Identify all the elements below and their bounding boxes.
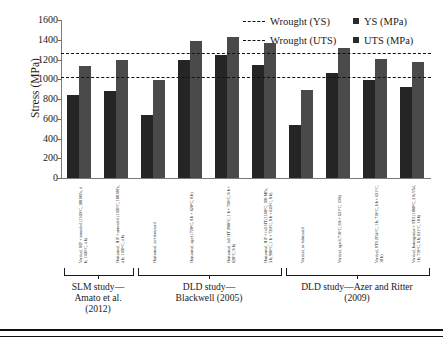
bar-ys	[67, 95, 79, 178]
bar-uts	[227, 37, 239, 178]
y-tick-mark	[58, 40, 61, 41]
x-category-label: Vertical, HIP + annealed (1160°C, 100 MP…	[79, 185, 88, 263]
bottom-rule-thick	[0, 329, 443, 331]
x-category-label: Vertical, STA (954°C, 1 h; 718°C, 6 h + …	[375, 185, 384, 263]
group-bracket-tick	[98, 275, 99, 279]
x-category-label: Vertical, homogenize + STA (1080°C, 2 h;…	[412, 185, 421, 263]
y-tick-label: 1000	[26, 74, 58, 84]
x-category-label: Horizontal, full HT (980°C, 1 h + 720°C,…	[227, 185, 236, 263]
bar-ys	[400, 87, 412, 178]
x-category-label: Horizontal, aged (720°C, 8 h + 620°C, 8 …	[190, 185, 195, 263]
reference-line-wrought-ys	[61, 77, 431, 78]
y-axis-tick-labels: 16001400120010008006004002000	[26, 14, 58, 186]
bar-ys	[289, 125, 301, 178]
x-category-label: Vertical, aged (718°C, 6 h + 621°C, 10 h…	[338, 185, 343, 263]
group-bracket-tick	[209, 275, 210, 279]
x-category-label: Horizontal, HIP + annealed (1160°C, 100 …	[116, 185, 125, 263]
y-tick-label: 800	[26, 94, 58, 104]
y-tick-label: 1200	[26, 55, 58, 65]
bar-uts	[338, 48, 350, 178]
bar-uts	[301, 90, 313, 178]
bar-uts	[264, 43, 276, 178]
bar-ys	[252, 65, 264, 178]
x-category-label: Horizontal, HIP + full HT (1160°C, 100 M…	[264, 185, 273, 263]
y-tick-mark	[58, 139, 61, 140]
y-tick-label: 0	[26, 173, 58, 183]
y-tick-mark	[58, 178, 61, 179]
bar-uts	[190, 41, 202, 178]
y-tick-label: 1400	[26, 35, 58, 45]
y-tick-mark	[58, 79, 61, 80]
bar-uts	[412, 62, 424, 178]
group-label: DLD study—Azer and Ritter(2009)	[264, 281, 443, 303]
group-bracket-tick	[357, 275, 358, 279]
bar-ys	[104, 91, 116, 178]
x-category-label: Horizontal, as-fabricated	[153, 185, 158, 263]
y-tick-label: 600	[26, 114, 58, 124]
group-bracket	[138, 268, 282, 276]
group-bracket	[64, 268, 134, 276]
bar-ys	[215, 55, 227, 178]
y-tick-mark	[58, 99, 61, 100]
y-tick-label: 200	[26, 153, 58, 163]
bar-ys	[326, 73, 338, 178]
plot-area	[61, 20, 431, 178]
bar-uts	[79, 66, 91, 178]
group-bracket	[286, 268, 430, 276]
bar-ys	[363, 80, 375, 178]
y-tick-mark	[58, 60, 61, 61]
y-tick-mark	[58, 158, 61, 159]
x-axis-line	[61, 178, 431, 179]
x-category-label: Vertical, as-fabricated	[301, 185, 306, 263]
figure-canvas: Wrought (YS) Wrought (UTS) YS (MPa) UTS …	[0, 0, 443, 344]
y-tick-label: 1600	[26, 15, 58, 25]
y-tick-label: 400	[26, 134, 58, 144]
bar-ys	[141, 115, 153, 178]
y-tick-mark	[58, 20, 61, 21]
bottom-rule-thin	[0, 336, 443, 337]
y-tick-mark	[58, 119, 61, 120]
bar-uts	[153, 80, 165, 178]
reference-line-wrought-uts	[61, 53, 431, 54]
